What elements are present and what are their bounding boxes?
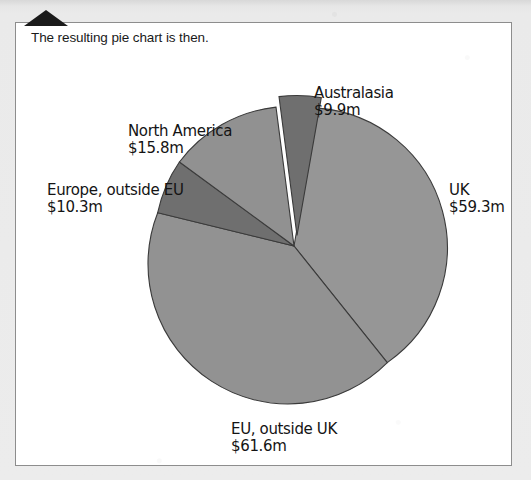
pie-label-north-america-value: $15.8m [128, 140, 232, 157]
pie-label-europe-outside-eu-value: $10.3m [47, 199, 184, 216]
pie-label-eu-outside-uk-name: EU, outside UK [231, 421, 337, 438]
pie-chart: Australasia $9.9m North America $15.8m E… [15, 22, 512, 466]
pie-label-eu-outside-uk: EU, outside UK $61.6m [231, 421, 337, 455]
pie-label-australasia-value: $9.9m [314, 102, 394, 119]
pie-label-uk-value: $59.3m [449, 199, 504, 216]
pie-label-uk-name: UK [449, 182, 504, 199]
pie-label-europe-outside-eu: Europe, outside EU $10.3m [47, 182, 184, 216]
pie-label-north-america: North America $15.8m [128, 123, 232, 157]
pie-label-north-america-name: North America [128, 123, 232, 140]
pie-label-europe-outside-eu-name: Europe, outside EU [47, 182, 184, 199]
pie-chart-svg [15, 22, 512, 466]
pie-label-uk: UK $59.3m [449, 182, 504, 216]
pie-label-eu-outside-uk-value: $61.6m [231, 438, 337, 455]
triangle-marker-icon [24, 10, 68, 26]
pie-label-australasia-name: Australasia [314, 85, 394, 102]
pie-label-australasia: Australasia $9.9m [314, 85, 394, 119]
scanned-page: The resulting pie chart is then. Austral… [0, 0, 531, 480]
